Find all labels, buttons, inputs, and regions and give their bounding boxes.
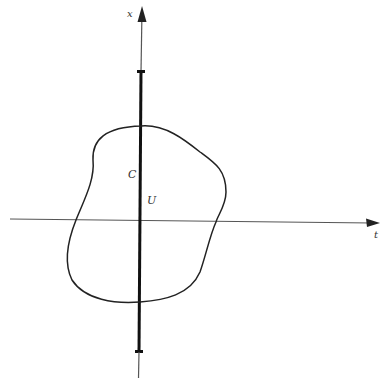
t-axis-label: t [374,229,379,240]
t-axis [10,219,372,223]
t-axis-arrowhead-icon [366,219,380,228]
x-axis-label: x [127,8,133,19]
curve-label-c: C [128,168,137,181]
region-label-u: U [147,194,157,207]
x-axis-lower-thin [139,352,140,378]
upper-segment-marker [137,70,145,73]
x-axis-arrowhead-icon [138,6,147,22]
x-axis-thick-segment [139,71,141,352]
boundary-curve [67,126,226,303]
diagram-canvas: t x C U [0,0,386,390]
